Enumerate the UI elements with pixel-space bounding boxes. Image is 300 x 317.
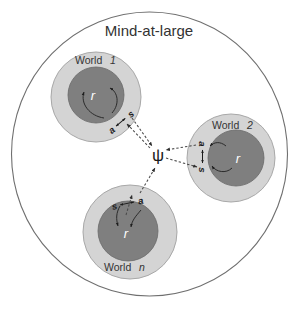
psi-symbol: ψ — [152, 146, 164, 165]
world-n-label-index: n — [139, 261, 145, 273]
world-n-label: World n — [104, 261, 145, 273]
world-n-r-symbol: r — [124, 226, 129, 241]
world-1-inner-circle — [68, 67, 124, 123]
diagram-canvas: Mind-at-large r World 1 a s — [0, 0, 300, 317]
world-1-label-index: 1 — [110, 54, 116, 66]
world-2-label: World 2 — [212, 119, 253, 131]
world-2-label-index: 2 — [246, 119, 253, 131]
world-n-group[interactable]: r World n s a — [83, 185, 177, 279]
world-1-r-symbol: r — [91, 88, 96, 103]
world-2-label-prefix: World — [212, 119, 239, 131]
world-1-group[interactable]: r World 1 a s — [51, 52, 141, 142]
world-n-label-prefix: World — [104, 261, 131, 273]
world-2-group[interactable]: r World 2 a s — [187, 114, 275, 202]
world-1-label-prefix: World — [75, 54, 102, 66]
mind-at-large-diagram: Mind-at-large r World 1 a s — [0, 0, 300, 317]
world-2-relation-left: a — [197, 141, 208, 146]
world-2-r-symbol: r — [236, 151, 241, 166]
page-title: Mind-at-large — [105, 22, 193, 39]
world-1-label: World 1 — [75, 54, 116, 66]
world-2-relation-right: s — [197, 167, 208, 172]
